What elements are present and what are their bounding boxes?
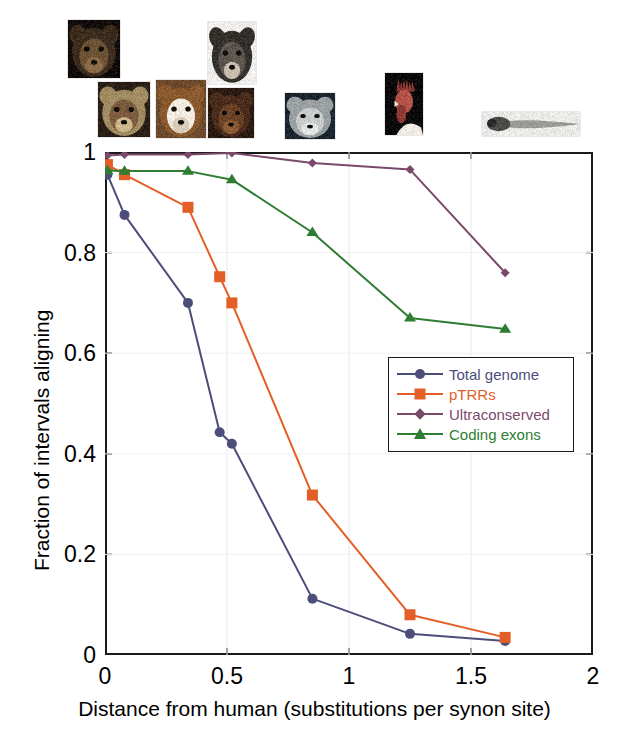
data-point bbox=[308, 159, 317, 168]
species-photo-mouse bbox=[208, 22, 256, 84]
data-point bbox=[183, 152, 192, 159]
legend-swatch-ptrrs bbox=[397, 385, 443, 403]
x-tick-label-1_5: 1.5 bbox=[455, 663, 487, 690]
data-point bbox=[182, 165, 194, 175]
data-point bbox=[306, 227, 318, 237]
x-tick-label-0: 0 bbox=[99, 663, 112, 690]
legend-item-ptrrs[interactable]: pTRRs bbox=[397, 384, 565, 404]
data-point bbox=[182, 202, 193, 213]
x-tick-label-0_5: 0.5 bbox=[211, 663, 243, 690]
figure-panel: 0 0.2 0.4 0.6 0.8 1 0 0.5 1 1.5 2 Distan… bbox=[0, 0, 629, 741]
y-tick-label-1: 1 bbox=[83, 139, 96, 166]
x-axis-label: Distance from human (substitutions per s… bbox=[0, 697, 629, 721]
legend-label-total-genome: Total genome bbox=[449, 367, 539, 382]
x-tick-label-2: 2 bbox=[587, 663, 600, 690]
legend-box: Total genome pTRRs Ultraconserved Coding… bbox=[388, 357, 574, 452]
legend-item-coding-exons[interactable]: Coding exons bbox=[397, 424, 565, 444]
species-photo-dog bbox=[156, 80, 206, 138]
data-point bbox=[227, 439, 237, 449]
data-point bbox=[183, 298, 193, 308]
species-photo-rat bbox=[208, 88, 254, 138]
legend-label-coding-exons: Coding exons bbox=[449, 427, 541, 442]
legend-label-ultraconserved: Ultraconserved bbox=[449, 407, 550, 422]
y-tick-label-0_4: 0.4 bbox=[64, 440, 96, 467]
y-tick-label-0_2: 0.2 bbox=[64, 541, 96, 568]
legend-item-total-genome[interactable]: Total genome bbox=[397, 364, 565, 384]
data-point bbox=[227, 152, 236, 158]
legend-swatch-ultraconserved bbox=[397, 405, 443, 423]
x-tick-label-1: 1 bbox=[343, 663, 356, 690]
species-photo-zebrafish bbox=[482, 112, 580, 136]
data-point bbox=[307, 490, 318, 501]
legend-swatch-coding-exons bbox=[397, 425, 443, 443]
species-photo-macaque bbox=[98, 82, 150, 137]
data-point bbox=[215, 427, 225, 437]
data-point bbox=[226, 297, 237, 308]
y-axis-label: Fraction of intervals aligning bbox=[30, 310, 54, 571]
species-photo-opossum bbox=[285, 93, 335, 139]
y-tick-label-0_8: 0.8 bbox=[64, 239, 96, 266]
species-photo-strip bbox=[0, 0, 629, 152]
data-point bbox=[405, 629, 415, 639]
data-point bbox=[405, 609, 416, 620]
data-point bbox=[500, 632, 511, 643]
species-photo-chimpanzee bbox=[68, 20, 120, 78]
species-photo-chicken bbox=[385, 73, 423, 135]
y-tick-label-0: 0 bbox=[83, 642, 96, 669]
data-point bbox=[105, 152, 112, 160]
legend-swatch-total-genome bbox=[397, 365, 443, 383]
data-point bbox=[120, 152, 129, 159]
legend-item-ultraconserved[interactable]: Ultraconserved bbox=[397, 404, 565, 424]
series-coding-exons bbox=[105, 165, 511, 333]
data-point bbox=[120, 210, 130, 220]
data-point bbox=[214, 271, 225, 282]
data-point bbox=[307, 594, 317, 604]
legend-label-ptrrs: pTRRs bbox=[449, 387, 496, 402]
y-tick-label-0_6: 0.6 bbox=[64, 340, 96, 367]
